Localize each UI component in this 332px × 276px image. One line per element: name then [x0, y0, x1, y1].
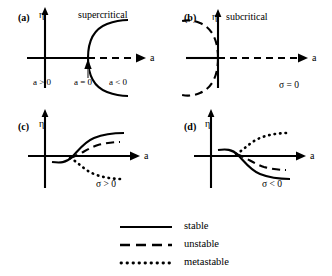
panel-b: (b) η a subcritical σ = 0 — [166, 0, 332, 100]
panel-d-x-axis-label: a — [310, 151, 314, 161]
panel-c-plot — [0, 100, 166, 200]
panel-a-title: supercritical — [78, 10, 127, 20]
panel-c-metastable-branch — [70, 158, 124, 179]
panel-a-y-axis-label: η — [39, 10, 44, 20]
legend-label-stable: stable — [184, 220, 209, 231]
panel-b-letter: (b) — [184, 13, 196, 23]
legend-label-metastable: metastable — [184, 256, 229, 267]
panel-a-x-axis-label: a — [150, 53, 154, 63]
panel-c-letter: (c) — [18, 122, 29, 132]
panel-b-title: subcritical — [226, 12, 268, 22]
panel-b-x-axis-label: a — [312, 53, 316, 63]
panel-d-condition: σ < 0 — [262, 180, 282, 190]
panel-b-condition: σ = 0 — [279, 81, 299, 91]
panel-a-annotation-a-negative: a < 0 — [109, 78, 127, 87]
panel-a: (a) η a supercritical a > 0 a = 0 a < 0 — [0, 0, 166, 100]
bifurcation-figure: (a) η a supercritical a > 0 a = 0 a < 0 … — [0, 0, 332, 276]
panel-d: (d) η a σ < 0 — [166, 100, 332, 200]
legend: stable unstable metastable — [0, 200, 332, 276]
legend-label-unstable: unstable — [184, 238, 219, 249]
panel-c-x-axis-label: a — [144, 151, 148, 161]
panel-d-stable-branch — [218, 150, 290, 179]
panel-d-metastable-branch — [236, 133, 290, 154]
panel-d-letter: (d) — [184, 122, 196, 132]
panel-c-condition: σ > 0 — [96, 180, 116, 190]
panel-c: (c) η a σ > 0 — [0, 100, 166, 200]
panel-d-plot — [166, 100, 332, 200]
panel-c-axes — [28, 109, 140, 188]
panel-c-stable-branch — [52, 133, 124, 162]
panel-d-axes — [194, 109, 306, 188]
legend-sample-dashed — [118, 237, 174, 253]
panel-b-y-axis-label: η — [212, 12, 217, 22]
panel-c-y-axis-label: η — [39, 119, 44, 129]
legend-sample-solid — [118, 219, 174, 235]
legend-sample-dotted — [118, 255, 174, 271]
panel-d-y-axis-label: η — [205, 119, 210, 129]
panel-a-annotation-a-zero: a = 0 — [74, 78, 92, 87]
panel-a-annotation-a-positive: a > 0 — [33, 78, 51, 87]
panel-a-letter: (a) — [18, 13, 30, 23]
